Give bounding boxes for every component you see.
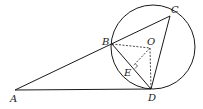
segment-ob bbox=[112, 44, 150, 48]
label-e: E bbox=[123, 67, 132, 78]
geometry-diagram: A B C D O E bbox=[0, 0, 203, 109]
label-c: C bbox=[171, 4, 179, 15]
right-angle-mark-e bbox=[135, 64, 138, 69]
label-b: B bbox=[101, 36, 109, 47]
segment-ad bbox=[15, 89, 151, 90]
segment-cd bbox=[151, 16, 170, 89]
segment-ac bbox=[15, 16, 170, 90]
segment-bd bbox=[112, 44, 151, 89]
segment-oe bbox=[133, 48, 150, 66]
label-o: O bbox=[147, 36, 155, 47]
label-a: A bbox=[9, 93, 17, 104]
segment-od bbox=[150, 48, 151, 89]
label-d: D bbox=[147, 92, 156, 103]
